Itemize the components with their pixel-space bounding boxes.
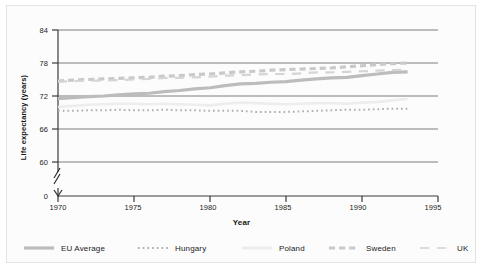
legend-item-eu-average[interactable]: EU Average — [24, 240, 105, 256]
series-line-sweden — [58, 63, 408, 81]
legend-swatch-uk — [420, 243, 450, 253]
legend-swatch-sweden — [329, 243, 359, 253]
legend-swatch-eu-average — [24, 243, 54, 253]
axis-lines — [52, 30, 438, 202]
legend-item-sweden[interactable]: Sweden — [329, 240, 396, 256]
life-expectancy-chart-figure: Life expectancy (years) Year 84 78 72 66… — [0, 0, 483, 273]
legend-swatch-hungary — [138, 243, 168, 253]
legend-item-hungary[interactable]: Hungary — [138, 240, 206, 256]
series-paths — [58, 63, 408, 112]
series-line-hungary — [58, 109, 408, 112]
legend-item-uk[interactable]: UK — [420, 240, 468, 256]
legend-label-eu-average: EU Average — [61, 244, 105, 253]
legend-swatch-poland — [242, 243, 272, 253]
series-line-poland — [58, 99, 408, 107]
chart-legend: EU Average Hungary Poland Sweden UK — [14, 240, 469, 256]
legend-label-hungary: Hungary — [175, 244, 206, 253]
legend-label-poland: Poland — [279, 244, 305, 253]
legend-label-sweden: Sweden — [366, 244, 396, 253]
legend-item-poland[interactable]: Poland — [242, 240, 305, 256]
plot-area — [0, 0, 483, 273]
legend-label-uk: UK — [457, 244, 468, 253]
